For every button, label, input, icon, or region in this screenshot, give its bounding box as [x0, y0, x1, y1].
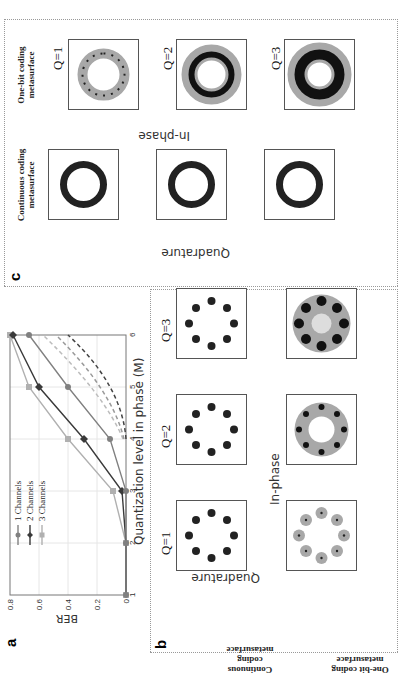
row-label-onebit: One-bit codingmetasurface — [325, 655, 395, 675]
c-row-title-q2: Q=2 — [160, 47, 176, 70]
chart-legend: 1 Channels 2 Channels 3 Channels — [13, 480, 47, 545]
svg-text:1 Channels: 1 Channels — [13, 480, 23, 521]
c-inphase-label: In-phase — [138, 129, 190, 143]
chart-grid — [10, 335, 126, 595]
c-onebit-q3-plot — [284, 38, 356, 110]
svg-text:0.8: 0.8 — [6, 598, 15, 610]
panel-b-label: b — [152, 640, 169, 649]
row-label-continuous: Continuous codingmetasurface — [215, 645, 285, 675]
b-onebit-q1-plot — [286, 499, 358, 571]
c-row-title-q3: Q=3 — [268, 47, 284, 70]
c-continuous-q3-plot — [264, 148, 336, 220]
series-1-channels — [29, 335, 126, 595]
c-quadrature-label: Quadrature — [161, 246, 230, 260]
c-onebit-q2-plot — [176, 38, 248, 110]
c-col-label-continuous: Continuous codingmetasurface — [16, 145, 36, 225]
y-ticks: 0 0.2 0.4 0.6 0.8 — [6, 598, 131, 610]
svg-text:0.4: 0.4 — [64, 598, 73, 610]
series-2-channels — [13, 335, 126, 595]
c-row-title-q1: Q=1 — [50, 47, 66, 70]
svg-text:0.6: 0.6 — [35, 598, 44, 610]
b-continuous-q2-plot — [176, 393, 248, 465]
b-quadrature-label: Quadrature — [191, 571, 260, 585]
c-continuous-q2-plot — [156, 148, 228, 220]
panel-a-label: a — [2, 639, 19, 647]
svg-text:0: 0 — [122, 598, 131, 603]
b-inphase-label: In-phase — [268, 453, 282, 505]
b-continuous-q3-plot — [176, 287, 248, 359]
b-col-title-q3: Q=3 — [158, 319, 174, 342]
c-continuous-q1-plot — [48, 148, 120, 220]
c-onebit-q1-plot — [68, 38, 140, 110]
panel-c-label: c — [6, 273, 23, 281]
b-onebit-q2-plot — [286, 393, 358, 465]
b-onebit-q3-plot — [286, 287, 358, 359]
svg-text:2 Channels: 2 Channels — [25, 480, 35, 521]
b-col-title-q2: Q=2 — [158, 425, 174, 448]
svg-text:3 Channels: 3 Channels — [37, 480, 47, 521]
b-col-title-q1: Q=1 — [158, 532, 174, 555]
b-continuous-q1-plot — [176, 499, 248, 571]
x-axis-label-a: Quantization level in phase (M) — [132, 358, 146, 545]
c-col-label-onebit: One-bit codingmetasurface — [16, 35, 36, 115]
svg-text:0.2: 0.2 — [93, 598, 102, 610]
ber-chart: 0 0.2 0.4 0.6 0.8 1 Channels 2 Cha — [0, 315, 132, 615]
